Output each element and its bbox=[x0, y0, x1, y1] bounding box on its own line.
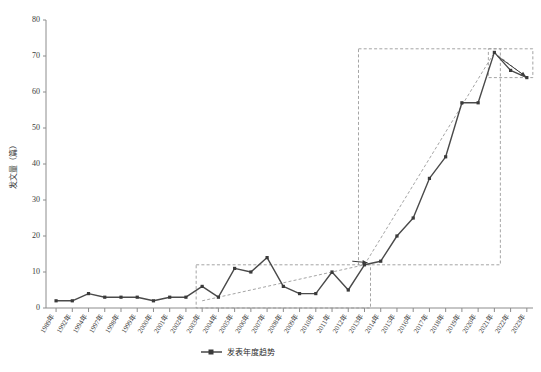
x-axis-tick-label: 2005年 bbox=[217, 312, 236, 335]
legend-swatch-marker bbox=[209, 350, 214, 355]
x-axis-tick-label: 2020年 bbox=[460, 312, 479, 335]
growth-period-box bbox=[358, 49, 500, 265]
x-axis-tick-label: 2007年 bbox=[249, 312, 268, 335]
x-axis-tick-label: 2004年 bbox=[200, 312, 219, 335]
data-point-marker bbox=[525, 76, 528, 79]
data-point-marker bbox=[379, 260, 382, 263]
data-point-marker bbox=[54, 299, 57, 302]
data-point-marker bbox=[184, 296, 187, 299]
x-axis-tick-label: 1989年 bbox=[38, 312, 57, 335]
data-point-marker bbox=[233, 267, 236, 270]
growth-period-trend bbox=[364, 52, 494, 264]
x-axis-tick-label: 2013年 bbox=[346, 312, 365, 335]
x-axis-tick-label: 2008年 bbox=[265, 312, 284, 335]
data-point-marker bbox=[314, 292, 317, 295]
y-axis-tick-label: 0 bbox=[36, 303, 40, 312]
y-axis-tick-label: 20 bbox=[32, 231, 40, 240]
data-point-marker bbox=[201, 285, 204, 288]
x-axis-tick-label: 1999年 bbox=[119, 312, 138, 335]
series-line-publication-trend bbox=[56, 52, 527, 300]
data-point-marker bbox=[119, 296, 122, 299]
x-axis-tick-label: 2000年 bbox=[135, 312, 154, 335]
data-point-marker bbox=[412, 216, 415, 219]
y-axis-tick-label: 70 bbox=[32, 51, 40, 60]
data-point-marker bbox=[460, 101, 463, 104]
x-axis-tick-label: 1998年 bbox=[103, 312, 122, 335]
legend-label: 发表年度趋势 bbox=[227, 347, 275, 357]
x-axis-tick-label: 1997年 bbox=[87, 312, 106, 335]
x-axis-tick-label: 1994年 bbox=[70, 312, 89, 335]
y-axis-tick-label: 60 bbox=[32, 87, 40, 96]
x-axis-ticks bbox=[56, 308, 527, 312]
data-point-marker bbox=[477, 101, 480, 104]
x-axis-tick-label: 2009年 bbox=[282, 312, 301, 335]
data-point-marker bbox=[330, 270, 333, 273]
x-axis-tick-label: 2011年 bbox=[314, 312, 333, 334]
x-axis-tick-label: 2010年 bbox=[298, 312, 317, 335]
annotation-arrows bbox=[352, 56, 526, 264]
y-axis-tick-label: 30 bbox=[32, 195, 40, 204]
data-point-marker bbox=[395, 234, 398, 237]
data-point-marker bbox=[103, 296, 106, 299]
data-point-marker bbox=[493, 51, 496, 54]
y-axis-tick-label: 80 bbox=[32, 15, 40, 24]
x-axis-tick-label: 2019年 bbox=[444, 312, 463, 335]
data-point-marker bbox=[363, 263, 366, 266]
x-axis-tick-label: 2002年 bbox=[168, 312, 187, 335]
data-point-marker bbox=[136, 296, 139, 299]
x-axis-tick-label: 2022年 bbox=[493, 312, 512, 335]
x-axis-tick-label: 2021年 bbox=[476, 312, 495, 335]
data-point-marker bbox=[249, 270, 252, 273]
data-point-marker bbox=[217, 296, 220, 299]
data-point-marker bbox=[152, 299, 155, 302]
data-point-marker bbox=[509, 69, 512, 72]
x-axis-tick-label: 1992年 bbox=[54, 312, 73, 335]
data-point-marker bbox=[347, 288, 350, 291]
data-point-marker bbox=[428, 177, 431, 180]
y-axis-tick-label: 10 bbox=[32, 267, 40, 276]
chart-legend: 发表年度趋势 bbox=[201, 347, 275, 357]
data-point-marker bbox=[444, 155, 447, 158]
x-axis-tick-label: 2018年 bbox=[428, 312, 447, 335]
x-axis-tick-label: 2003年 bbox=[184, 312, 203, 335]
x-axis-tick-labels: 1989年1992年1994年1997年1998年1999年2000年2001年… bbox=[38, 312, 528, 335]
data-point-marker bbox=[282, 285, 285, 288]
y-axis-title: 发文量（篇） bbox=[8, 141, 18, 189]
data-point-marker bbox=[266, 256, 269, 259]
x-axis-tick-label: 2006年 bbox=[233, 312, 252, 335]
x-axis-tick-label: 2015年 bbox=[379, 312, 398, 335]
x-axis-tick-label: 2017年 bbox=[411, 312, 430, 335]
data-point-marker bbox=[87, 292, 90, 295]
x-axis-tick-label: 2023年 bbox=[509, 312, 528, 335]
data-point-marker bbox=[71, 299, 74, 302]
x-axis-tick-label: 2001年 bbox=[152, 312, 171, 335]
x-axis-tick-label: 2012年 bbox=[330, 312, 349, 335]
data-point-marker bbox=[298, 292, 301, 295]
x-axis-tick-label: 2014年 bbox=[363, 312, 382, 335]
x-axis-tick-label: 2016年 bbox=[395, 312, 414, 335]
y-axis-tick-label: 50 bbox=[32, 123, 40, 132]
chart-container: 发文量（篇） 01020304050607080 1989年1992年1994年… bbox=[0, 0, 541, 372]
publication-trend-line-chart: 发文量（篇） 01020304050607080 1989年1992年1994年… bbox=[0, 0, 541, 372]
data-point-marker bbox=[168, 296, 171, 299]
y-axis-tick-label: 40 bbox=[32, 159, 40, 168]
y-axis-ticks: 01020304050607080 bbox=[32, 15, 46, 312]
decline-arrow bbox=[497, 56, 525, 77]
